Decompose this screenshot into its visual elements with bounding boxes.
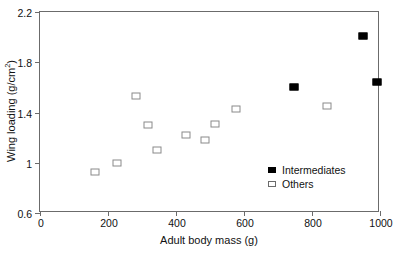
x-axis-tick-label: 1000 xyxy=(369,217,392,229)
x-axis-tick-label: 200 xyxy=(100,217,118,229)
data-point-others xyxy=(211,120,220,127)
open-square-icon xyxy=(268,181,276,187)
x-axis-title: Adult body mass (g) xyxy=(39,234,379,246)
x-axis-tick: 800 xyxy=(312,211,313,216)
data-point-others xyxy=(182,132,191,139)
data-point-intermediates xyxy=(372,79,381,86)
legend-label-others: Others xyxy=(282,177,314,191)
y-axis-tick-label: 0.6 xyxy=(17,208,32,220)
data-point-others xyxy=(153,147,162,154)
y-axis-tick: 2.2 xyxy=(35,12,40,13)
y-axis-title-exponent: 2 xyxy=(3,64,12,68)
y-axis-tick: 1.8 xyxy=(35,62,40,63)
data-point-intermediates xyxy=(289,84,298,91)
legend-item-intermediates: Intermediates xyxy=(268,163,346,177)
data-point-others xyxy=(131,93,140,100)
y-axis-tick-label: 1.8 xyxy=(17,57,32,69)
y-axis-tick-label: 2.2 xyxy=(17,7,32,19)
data-point-others xyxy=(112,159,121,166)
x-axis-tick-label: 0 xyxy=(38,217,44,229)
scatter-plot-figure: 0.611.41.82.202004006008001000 Adult bod… xyxy=(0,0,397,255)
y-axis-tick-label: 1.4 xyxy=(17,108,32,120)
x-axis-tick-label: 600 xyxy=(236,217,254,229)
x-axis-tick-label: 400 xyxy=(168,217,186,229)
legend-item-others: Others xyxy=(268,177,346,191)
chart-legend: Intermediates Others xyxy=(268,163,346,191)
x-axis-tick: 400 xyxy=(176,211,177,216)
x-axis-tick: 200 xyxy=(108,211,109,216)
y-axis-title-suffix: ) xyxy=(5,60,17,64)
y-axis-title: Wing loading (g/cm2) xyxy=(3,41,17,181)
data-point-intermediates xyxy=(359,32,368,39)
y-axis-tick: 1.4 xyxy=(35,113,40,114)
x-axis-tick-label: 800 xyxy=(304,217,322,229)
data-point-others xyxy=(200,137,209,144)
data-point-others xyxy=(144,122,153,129)
y-axis-tick: 1 xyxy=(35,163,40,164)
y-axis-title-text: Wing loading (g/cm xyxy=(5,68,17,162)
legend-label-intermediates: Intermediates xyxy=(282,163,346,177)
data-point-others xyxy=(232,105,241,112)
y-axis-tick-label: 1 xyxy=(26,158,32,170)
x-axis-tick: 0 xyxy=(40,211,41,216)
data-point-others xyxy=(91,168,100,175)
x-axis-tick: 600 xyxy=(244,211,245,216)
data-point-others xyxy=(323,103,332,110)
filled-square-icon xyxy=(268,167,276,173)
x-axis-tick: 1000 xyxy=(380,211,381,216)
